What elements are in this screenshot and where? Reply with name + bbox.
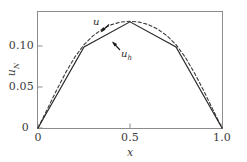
curve-label-uh-sub: h	[127, 54, 132, 62]
y-axis-label-main: u	[5, 69, 18, 76]
x-tick-label-0: 0	[34, 131, 41, 144]
series-uh-solid	[38, 22, 222, 128]
figure-container: 0 0.05 0.10 0 0.5 1.0 uN x u uh	[0, 0, 247, 162]
x-tick-label-05: 0.5	[121, 131, 139, 144]
y-tick-label-010: 0.10	[9, 39, 34, 52]
annotation-arrow-u	[101, 25, 110, 33]
annotation-arrow-uh	[112, 41, 120, 50]
x-axis-label: x	[127, 146, 133, 159]
plot-frame	[38, 12, 223, 129]
x-tick-label-10: 1.0	[213, 131, 231, 144]
y-tick-label-0: 0	[22, 121, 29, 134]
x-tick-marks	[38, 124, 222, 129]
series-u-dashed	[38, 21, 222, 128]
y-tick-marks	[38, 46, 43, 128]
curve-label-u: u	[93, 16, 99, 27]
y-tick-label-005: 0.05	[9, 80, 34, 93]
y-axis-label-sub: N	[13, 63, 21, 69]
y-axis-label: uN	[5, 59, 20, 81]
curve-label-uh: uh	[121, 48, 132, 62]
